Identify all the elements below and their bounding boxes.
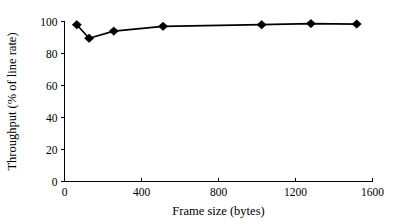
x-tick-label: 1600 bbox=[361, 186, 384, 198]
y-tick-label: 0 bbox=[52, 176, 58, 188]
y-tick-label: 20 bbox=[46, 144, 58, 156]
x-axis-ticks bbox=[65, 178, 373, 182]
y-tick-label: 40 bbox=[46, 112, 58, 124]
y-axis-ticks bbox=[61, 22, 65, 182]
y-axis-tick-labels: 020406080100 bbox=[40, 16, 58, 188]
x-tick-label: 800 bbox=[210, 186, 228, 198]
y-axis-title: Throughput (% of line rate) bbox=[5, 32, 19, 170]
x-tick-label: 1200 bbox=[284, 186, 307, 198]
data-series-throughput bbox=[77, 24, 357, 39]
y-tick-label: 100 bbox=[40, 16, 58, 28]
y-tick-label: 60 bbox=[46, 80, 58, 92]
x-axis-tick-labels: 040080012001600 bbox=[62, 186, 385, 198]
data-point-marker bbox=[306, 19, 315, 27]
x-axis-title: Frame size (bytes) bbox=[172, 204, 264, 218]
y-tick-label: 80 bbox=[46, 48, 58, 60]
data-point-marker bbox=[109, 27, 118, 35]
throughput-vs-frame-size-chart: 020406080100 040080012001600 Throughput … bbox=[0, 0, 411, 224]
data-point-marker bbox=[257, 21, 266, 29]
x-tick-label: 400 bbox=[133, 186, 151, 198]
data-point-marker bbox=[352, 20, 361, 28]
chart-plot-area: 020406080100 040080012001600 Throughput … bbox=[0, 0, 411, 224]
data-point-marker bbox=[158, 22, 167, 30]
x-tick-label: 0 bbox=[62, 186, 68, 198]
